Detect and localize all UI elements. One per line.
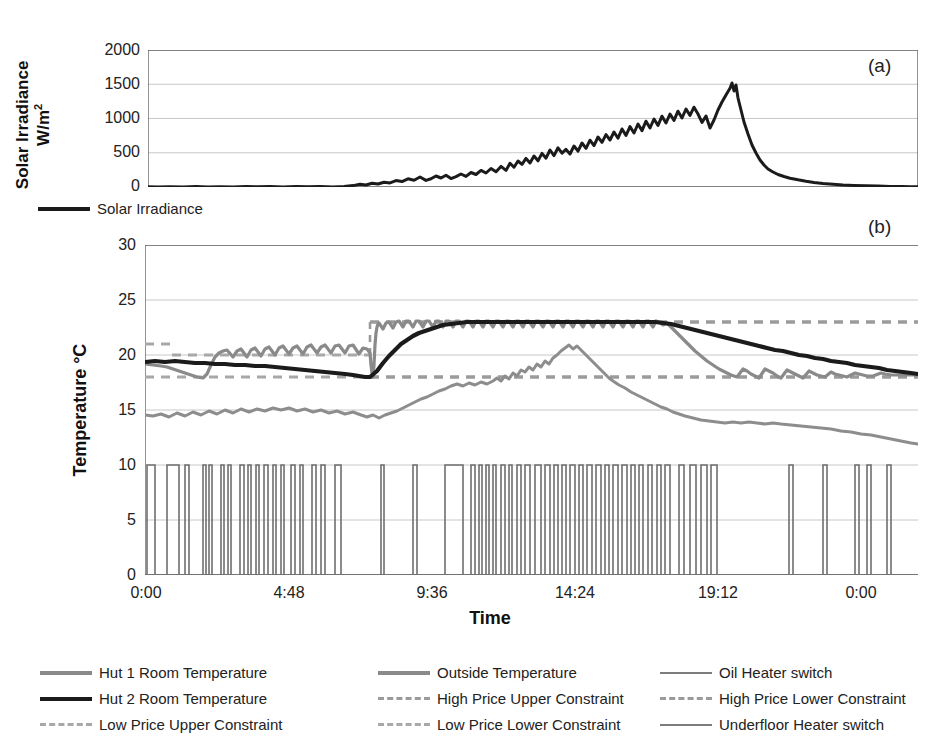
legend-line-icon-low-price-lower-constraint bbox=[378, 723, 430, 726]
legend-label-oil-heater-switch: Oil Heater switch bbox=[719, 664, 832, 681]
legend-item-outside-temperature: Outside Temperature bbox=[378, 664, 577, 681]
legend-label-outside-temperature: Outside Temperature bbox=[437, 664, 577, 681]
figure-root: Solar Irradiance W/m2 2000 1500 1000 500… bbox=[0, 0, 941, 736]
legend-label-low-price-lower-constraint: Low Price Lower Constraint bbox=[437, 716, 620, 733]
legend-item-hut-1-room-temperature: Hut 1 Room Temperature bbox=[40, 664, 267, 681]
legend-label-hut-2-room-temperature: Hut 2 Room Temperature bbox=[99, 690, 267, 707]
legend-item-high-price-upper-constraint: High Price Upper Constraint bbox=[378, 690, 624, 707]
legend-item-underfloor-heater-switch: Underfloor Heater switch bbox=[660, 716, 884, 733]
legend-item-low-price-upper-constraint: Low Price Upper Constraint bbox=[40, 716, 282, 733]
panel-b-legend: Hut 1 Room Temperature Hut 2 Room Temper… bbox=[0, 0, 941, 736]
legend-line-icon-outside-temperature bbox=[378, 671, 430, 675]
legend-label-underfloor-heater-switch: Underfloor Heater switch bbox=[719, 716, 884, 733]
legend-item-oil-heater-switch: Oil Heater switch bbox=[660, 664, 832, 681]
legend-line-icon-low-price-upper-constraint bbox=[40, 723, 92, 726]
legend-label-low-price-upper-constraint: Low Price Upper Constraint bbox=[99, 716, 282, 733]
legend-item-high-price-lower-constraint: High Price Lower Constraint bbox=[660, 690, 906, 707]
legend-line-icon-high-price-lower-constraint bbox=[660, 697, 712, 700]
legend-label-hut-1-room-temperature: Hut 1 Room Temperature bbox=[99, 664, 267, 681]
legend-line-icon-hut-1-room-temperature bbox=[40, 671, 92, 675]
legend-line-icon-oil-heater-switch bbox=[660, 672, 712, 674]
legend-label-high-price-lower-constraint: High Price Lower Constraint bbox=[719, 690, 906, 707]
legend-line-icon-hut-2-room-temperature bbox=[40, 697, 92, 701]
legend-label-high-price-upper-constraint: High Price Upper Constraint bbox=[437, 690, 624, 707]
legend-item-hut-2-room-temperature: Hut 2 Room Temperature bbox=[40, 690, 267, 707]
legend-line-icon-high-price-upper-constraint bbox=[378, 697, 430, 700]
legend-item-low-price-lower-constraint: Low Price Lower Constraint bbox=[378, 716, 620, 733]
legend-line-icon-underfloor-heater-switch bbox=[660, 724, 712, 726]
